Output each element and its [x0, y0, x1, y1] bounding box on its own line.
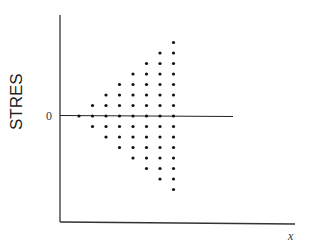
data-point: [131, 135, 134, 138]
data-point: [172, 188, 175, 191]
data-point: [172, 114, 175, 117]
data-point: [131, 146, 134, 149]
data-point: [172, 125, 175, 128]
data-point: [145, 83, 148, 86]
data-point: [158, 51, 161, 54]
data-point: [131, 114, 134, 117]
data-point: [131, 104, 134, 107]
data-point: [145, 114, 148, 117]
data-point: [158, 114, 161, 117]
data-point: [172, 167, 175, 170]
x-axis-label: x: [287, 229, 294, 243]
data-point: [172, 93, 175, 96]
data-point: [104, 93, 107, 96]
data-point: [131, 125, 134, 128]
data-point: [158, 167, 161, 170]
data-point: [158, 125, 161, 128]
data-point: [158, 135, 161, 138]
data-point: [158, 72, 161, 75]
data-point: [104, 125, 107, 128]
data-point: [158, 93, 161, 96]
y-tick-label-zero: 0: [46, 109, 52, 123]
data-point: [104, 114, 107, 117]
data-point: [172, 135, 175, 138]
data-point: [172, 62, 175, 65]
data-point: [131, 93, 134, 96]
data-point: [118, 83, 121, 86]
data-point: [131, 83, 134, 86]
data-point: [158, 104, 161, 107]
data-point: [118, 104, 121, 107]
data-point: [145, 125, 148, 128]
data-point: [118, 93, 121, 96]
data-point: [118, 125, 121, 128]
data-point: [131, 72, 134, 75]
data-point: [158, 83, 161, 86]
data-point: [172, 104, 175, 107]
data-point: [145, 167, 148, 170]
data-point: [172, 83, 175, 86]
data-point: [118, 114, 121, 117]
data-point: [145, 62, 148, 65]
data-point: [145, 72, 148, 75]
data-point: [158, 156, 161, 159]
data-point: [145, 156, 148, 159]
data-point: [91, 125, 94, 128]
data-point: [145, 135, 148, 138]
data-point: [172, 146, 175, 149]
data-point: [172, 156, 175, 159]
data-point: [104, 104, 107, 107]
data-point: [172, 51, 175, 54]
data-point: [172, 177, 175, 180]
data-point: [172, 41, 175, 44]
data-point: [145, 146, 148, 149]
data-point: [118, 146, 121, 149]
x-axis: [60, 222, 295, 224]
data-point: [104, 135, 107, 138]
data-point: [145, 104, 148, 107]
data-point: [158, 62, 161, 65]
data-point: [91, 104, 94, 107]
data-point: [158, 146, 161, 149]
y-axis-label: STRES: [7, 73, 26, 130]
data-point: [91, 114, 94, 117]
residual-scatter-chart: STRES 0 x: [0, 0, 312, 252]
data-point: [118, 135, 121, 138]
data-point: [145, 93, 148, 96]
data-point: [77, 114, 80, 117]
data-point: [172, 72, 175, 75]
data-point: [131, 156, 134, 159]
data-point: [158, 177, 161, 180]
